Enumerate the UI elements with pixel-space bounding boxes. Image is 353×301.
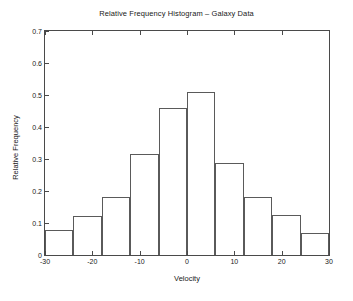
x-axis-title: Velocity xyxy=(44,274,330,283)
x-tick-mark xyxy=(234,251,235,255)
x-tick-mark xyxy=(92,251,93,255)
y-tick-label: 0.4 xyxy=(32,124,42,131)
x-tick-mark xyxy=(45,251,46,255)
x-tick-label: 0 xyxy=(185,258,189,265)
histogram-bar xyxy=(301,233,329,255)
x-tick-mark-top xyxy=(140,31,141,35)
histogram-bars xyxy=(45,31,329,255)
histogram-bar xyxy=(73,216,101,255)
y-tick-mark xyxy=(45,63,49,64)
x-tick-mark-top xyxy=(329,31,330,35)
plot-area: 00.10.20.30.40.50.60.7 -30-20-100102030 xyxy=(44,30,330,256)
x-tick-mark-top xyxy=(45,31,46,35)
x-tick-mark xyxy=(329,251,330,255)
x-tick-label: -10 xyxy=(135,258,145,265)
x-tick-label: -20 xyxy=(87,258,97,265)
x-tick-label: -30 xyxy=(40,258,50,265)
x-tick-mark-top xyxy=(92,31,93,35)
y-tick-label: 0.1 xyxy=(32,220,42,227)
x-tick-label: 10 xyxy=(230,258,238,265)
y-axis-title: Relative Frequency xyxy=(11,83,20,213)
x-tick-mark-top xyxy=(234,31,235,35)
histogram-bar xyxy=(215,163,243,255)
y-tick-label: 0.5 xyxy=(32,92,42,99)
y-tick-mark xyxy=(45,95,49,96)
y-tick-mark xyxy=(45,159,49,160)
y-tick-label: 0.3 xyxy=(32,156,42,163)
histogram-bar xyxy=(102,197,130,255)
histogram-bar xyxy=(159,108,187,255)
x-tick-mark-top xyxy=(282,31,283,35)
figure-canvas: Relative Frequency Histogram – Galaxy Da… xyxy=(0,0,353,301)
x-tick-mark xyxy=(282,251,283,255)
histogram-bar xyxy=(187,92,215,255)
histogram-bar xyxy=(244,197,272,255)
histogram-bar xyxy=(45,230,73,255)
y-tick-label: 0.2 xyxy=(32,188,42,195)
x-tick-label: 20 xyxy=(278,258,286,265)
x-tick-mark xyxy=(140,251,141,255)
x-tick-label: 30 xyxy=(325,258,333,265)
y-tick-mark xyxy=(45,255,49,256)
y-tick-mark xyxy=(45,223,49,224)
y-tick-label: 0.6 xyxy=(32,60,42,67)
y-tick-mark xyxy=(45,191,49,192)
x-tick-mark-top xyxy=(187,31,188,35)
chart-title: Relative Frequency Histogram – Galaxy Da… xyxy=(0,9,353,18)
y-tick-mark xyxy=(45,127,49,128)
histogram-bar xyxy=(130,154,158,255)
x-tick-mark xyxy=(187,251,188,255)
y-tick-label: 0.7 xyxy=(32,28,42,35)
histogram-bar xyxy=(272,215,300,255)
